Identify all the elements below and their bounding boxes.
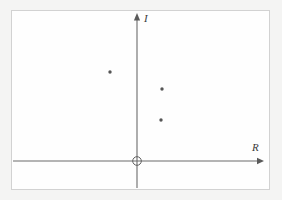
real-axis-label: R — [252, 142, 259, 153]
figure-frame — [11, 10, 270, 190]
figure-screenshot: I R — [0, 0, 282, 200]
imaginary-axis-label: I — [144, 13, 148, 24]
